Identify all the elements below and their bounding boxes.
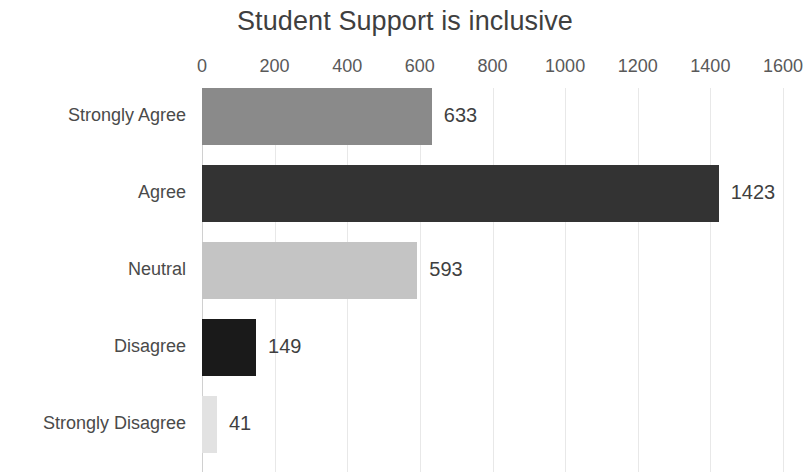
gridline-1200 <box>638 88 639 472</box>
bar[interactable] <box>202 396 217 453</box>
category-label: Neutral <box>0 259 186 280</box>
bar[interactable] <box>202 319 256 376</box>
category-label: Strongly Agree <box>0 105 186 126</box>
plot-area: 633142359314941 <box>202 88 783 472</box>
x-axis-tick-labels: 02004006008001000120014001600 <box>0 56 810 82</box>
x-tick-label: 800 <box>477 56 507 77</box>
bar-value-label: 593 <box>429 258 462 281</box>
chart-title: Student Support is inclusive <box>0 6 810 37</box>
x-tick-label: 1600 <box>763 56 803 77</box>
category-label: Agree <box>0 182 186 203</box>
gridline-1000 <box>565 88 566 472</box>
x-tick-label: 1200 <box>618 56 658 77</box>
x-tick-label: 200 <box>260 56 290 77</box>
bar-chart: Student Support is inclusive 02004006008… <box>0 0 810 472</box>
gridline-1600 <box>783 88 784 472</box>
gridline-1400 <box>710 88 711 472</box>
bar[interactable] <box>202 88 432 145</box>
x-tick-label: 1000 <box>545 56 585 77</box>
bar[interactable] <box>202 242 417 299</box>
x-tick-label: 400 <box>332 56 362 77</box>
bar-value-label: 41 <box>229 412 251 435</box>
bar-value-label: 1423 <box>731 181 776 204</box>
gridline-600 <box>420 88 421 472</box>
category-label: Disagree <box>0 336 186 357</box>
category-label: Strongly Disagree <box>0 413 186 434</box>
bar[interactable] <box>202 165 719 222</box>
bar-value-label: 633 <box>444 104 477 127</box>
x-tick-label: 0 <box>197 56 207 77</box>
category-axis-labels: Strongly AgreeAgreeNeutralDisagreeStrong… <box>0 88 186 472</box>
x-tick-label: 1400 <box>690 56 730 77</box>
x-tick-label: 600 <box>405 56 435 77</box>
gridline-800 <box>493 88 494 472</box>
bar-value-label: 149 <box>268 335 301 358</box>
